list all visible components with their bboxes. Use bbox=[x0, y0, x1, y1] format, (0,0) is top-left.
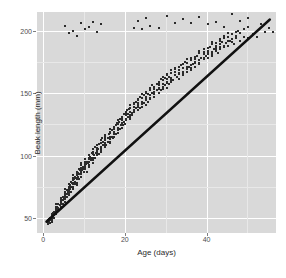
y-axis-title-wrap: Beak length (mm) bbox=[9, 0, 21, 245]
x-axis-title: Age (days) bbox=[37, 248, 276, 257]
y-tick-label: 50 bbox=[24, 215, 32, 222]
x-tick-label: 20 bbox=[121, 236, 129, 243]
x-tick-label: 0 bbox=[41, 236, 45, 243]
scatter-plot-figure: 50100150200 02040 Beak length (mm) Age (… bbox=[0, 0, 286, 278]
y-tick-label: 100 bbox=[20, 152, 32, 159]
y-axis-title: Beak length (mm) bbox=[33, 53, 42, 193]
plot-panel bbox=[37, 12, 276, 233]
y-tick-label: 150 bbox=[20, 90, 32, 97]
y-tick-mark bbox=[33, 31, 36, 32]
y-tick-mark bbox=[33, 218, 36, 219]
y-tick-label: 200 bbox=[20, 27, 32, 34]
regression-line bbox=[37, 12, 276, 233]
x-tick-label: 40 bbox=[203, 236, 211, 243]
